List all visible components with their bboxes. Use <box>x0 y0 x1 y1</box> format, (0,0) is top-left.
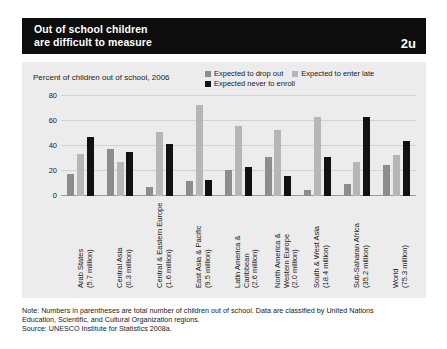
bar <box>284 176 291 196</box>
x-axis-label-cell: Latin America & Caribbean (2.6 million) <box>219 198 258 290</box>
y-axis-caption: Percent of children out of school, 2006 <box>33 73 170 82</box>
x-axis-tick-label: Arab States (5.7 million) <box>77 200 94 288</box>
y-axis-tick-label: 0 <box>53 191 57 200</box>
x-axis-tick-label: East Asia & Pacific (9.5 million) <box>195 200 212 288</box>
x-axis-label-cell: Central Asia (0.3 million) <box>100 198 139 290</box>
bar <box>324 157 331 196</box>
legend-label: Expected to drop out <box>214 69 283 78</box>
x-axis-label-cell: North America & Western Europe (2.0 mill… <box>258 198 297 290</box>
y-axis-tick-label: 20 <box>49 166 57 175</box>
bar <box>393 155 400 196</box>
bar-group <box>258 96 297 196</box>
figure-number-badge: 2u <box>401 36 416 54</box>
bar <box>205 180 212 196</box>
figure-note: Note: Numbers in parentheses are total n… <box>22 306 432 333</box>
x-axis-tick-label: World (75.3 million) <box>392 200 409 288</box>
bar <box>363 117 370 196</box>
bar <box>235 126 242 196</box>
bar <box>344 184 351 197</box>
x-axis-labels: Arab States (5.7 million)Central Asia (0… <box>61 198 416 290</box>
legend-item: Expected never to enroll <box>205 79 295 88</box>
legend-label: Expected to enter late <box>301 69 374 78</box>
chart-header-bar: Out of school children are difficult to … <box>22 18 426 54</box>
legend-label: Expected never to enroll <box>214 79 295 88</box>
bar-groups <box>61 96 416 196</box>
y-axis-tick-label: 80 <box>49 91 57 100</box>
bar <box>265 157 272 196</box>
bar <box>403 141 410 196</box>
bar <box>304 190 311 196</box>
note-line-1: Note: Numbers in parentheses are total n… <box>22 306 432 324</box>
bar <box>87 137 94 196</box>
bar <box>225 170 232 196</box>
bar <box>77 154 84 197</box>
x-axis-tick-label: Central Asia (0.3 million) <box>116 200 133 288</box>
x-axis-tick-label: North America & Western Europe (2.0 mill… <box>274 200 300 288</box>
bar-group <box>140 96 179 196</box>
bar <box>274 130 281 196</box>
bar <box>186 181 193 196</box>
legend-swatch-icon <box>292 71 298 77</box>
bar <box>166 144 173 197</box>
legend-row: Expected to drop outExpected to enter la… <box>205 69 420 89</box>
bar <box>196 105 203 196</box>
bar <box>117 162 124 196</box>
x-axis-tick-label: Latin America & Caribbean (2.6 million) <box>234 200 260 288</box>
y-axis-tick-label: 40 <box>49 141 57 150</box>
bar-group <box>219 96 258 196</box>
bar <box>245 167 252 196</box>
note-line-2: Source: UNESCO Institute for Statistics … <box>22 324 432 333</box>
legend-swatch-icon <box>205 71 211 77</box>
bar <box>156 132 163 196</box>
bar <box>353 162 360 196</box>
legend-swatch-icon <box>205 81 211 87</box>
plot-area: 020406080 <box>61 96 416 196</box>
x-axis-label-cell: East Asia & Pacific (9.5 million) <box>179 198 218 290</box>
y-axis-tick-label: 60 <box>49 116 57 125</box>
bar <box>383 165 390 196</box>
bar-group <box>298 96 337 196</box>
chart-panel: Percent of children out of school, 2006 … <box>22 62 426 298</box>
bar-group <box>337 96 376 196</box>
bar-group <box>61 96 100 196</box>
bar <box>314 117 321 196</box>
bar-group <box>377 96 416 196</box>
legend-item: Expected to drop out <box>205 69 283 78</box>
bar <box>146 187 153 196</box>
chart-legend: Expected to drop outExpected to enter la… <box>205 69 420 89</box>
bar <box>67 174 74 197</box>
bar <box>107 149 114 197</box>
bar-group <box>100 96 139 196</box>
x-axis-tick-label: Central & Eastern Europe (1.6 million) <box>156 200 173 288</box>
legend-item: Expected to enter late <box>292 69 374 78</box>
x-axis-label-cell: Arab States (5.7 million) <box>61 198 100 290</box>
bar <box>126 152 133 196</box>
x-axis-label-cell: World (75.3 million) <box>377 198 416 290</box>
x-axis-label-cell: Sub-Saharan Africa (35.2 million) <box>337 198 376 290</box>
figure-root: Out of school children are difficult to … <box>0 0 447 349</box>
x-axis-tick-label: South & West Asia (18.4 million) <box>313 200 330 288</box>
bar-group <box>179 96 218 196</box>
x-axis-tick-label: Sub-Saharan Africa (35.2 million) <box>353 200 370 288</box>
page-title: Out of school children are difficult to … <box>34 23 152 49</box>
x-axis-label-cell: South & West Asia (18.4 million) <box>298 198 337 290</box>
x-axis-label-cell: Central & Eastern Europe (1.6 million) <box>140 198 179 290</box>
